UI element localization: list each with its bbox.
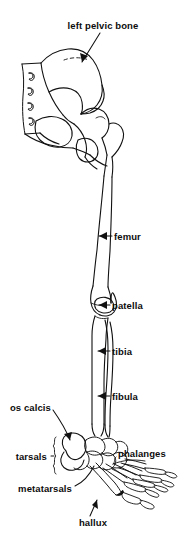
metatarsal-bones (90, 459, 146, 495)
leader-lines (51, 33, 145, 516)
skeleton-drawing (0, 0, 178, 544)
ischium-pubis (25, 117, 107, 169)
femur-shaft (93, 176, 112, 287)
label-femur: femur (114, 231, 141, 242)
anatomy-figure: left pelvic bone femur patella tibia fib… (0, 0, 178, 544)
ilium (41, 49, 104, 124)
phalanx-bones (122, 468, 177, 509)
label-os-calcis: os calcis (10, 402, 51, 413)
label-fibula: fibula (112, 391, 138, 402)
label-patella: patella (112, 300, 143, 311)
label-hallux: hallux (79, 517, 107, 528)
label-metatarsals: metatarsals (18, 483, 72, 494)
sacrum-vertebrae (22, 63, 41, 134)
label-phalanges: phalanges (118, 448, 166, 459)
label-tibia: tibia (112, 346, 132, 357)
femur-proximal (81, 108, 123, 177)
label-tarsals: tarsals (16, 451, 47, 462)
os-calcis (61, 433, 86, 470)
tibia (92, 316, 108, 436)
label-left-pelvic-bone: left pelvic bone (68, 20, 139, 31)
